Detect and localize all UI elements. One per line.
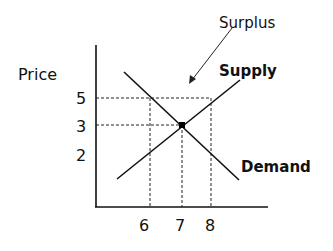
demand-label: Demand: [241, 158, 311, 176]
x-tick-7: 7: [175, 216, 185, 235]
supply-label: Supply: [219, 62, 277, 80]
x-tick-8: 8: [205, 216, 215, 235]
y-tick-3: 3: [76, 117, 86, 136]
surplus-label: Surplus: [219, 14, 275, 32]
y-axis-label: Price: [18, 65, 57, 84]
supply-demand-diagram: Price 5 3 2 6 7 8 Surplus Supply Demand: [0, 0, 333, 251]
y-tick-2: 2: [76, 146, 86, 165]
y-tick-5: 5: [76, 89, 86, 108]
x-tick-6: 6: [139, 216, 149, 235]
equilibrium-point: [179, 122, 185, 128]
